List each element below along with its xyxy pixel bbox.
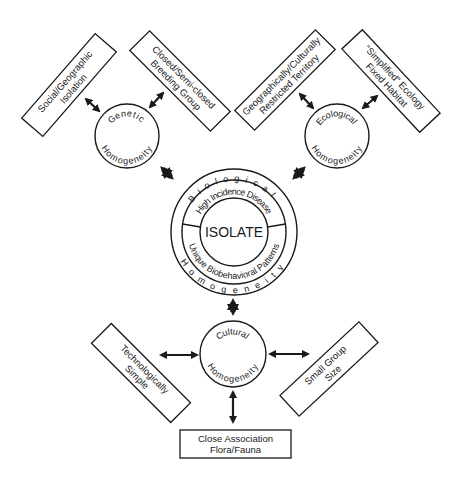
isolate-diagram: Social/Geographic Isolation Closed/Semi-…: [0, 0, 467, 480]
node-cultural-homogeneity: Cultural Homogeneity: [200, 321, 266, 387]
arrow-genetic-core: [163, 169, 171, 177]
node-ecological-homogeneity: Ecological Homogeneity: [305, 104, 369, 168]
arrow-simplified-ecological: [363, 96, 377, 108]
arrow-social-genetic: [86, 99, 99, 111]
box-flora-fauna: Close Association Flora/Fauna: [180, 430, 291, 458]
box-label-line1: Close Association: [198, 433, 273, 444]
node-genetic-homogeneity: Genetic Homogeneity: [95, 104, 159, 168]
box-technologically-simple: Technologically Simple: [92, 324, 191, 423]
isolate-label: ISOLATE: [205, 224, 263, 240]
core-isolate: Biological Homogeneity High Incidence Di…: [171, 169, 297, 295]
box-label-line2: Flora/Fauna: [210, 444, 262, 455]
arrow-breeding-genetic: [150, 93, 163, 107]
box-small-group-size: Small Group Size: [280, 322, 378, 416]
arrow-territory-ecological: [300, 94, 313, 108]
arrow-ecological-core: [295, 169, 303, 177]
